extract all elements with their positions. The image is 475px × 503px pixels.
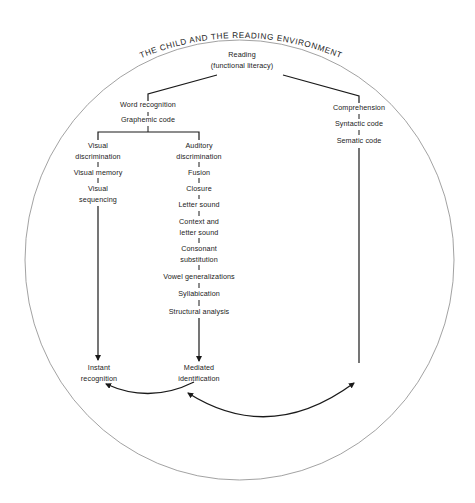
node-vowel-generalizations: Vowel generalizations <box>163 272 235 283</box>
node-fusion: Fusion <box>188 168 210 179</box>
node-comprehension: Comprehension <box>333 103 385 114</box>
arrow-mediated-comprehension-bidirectional <box>188 383 354 417</box>
node-context-letter-sound: Context and letter sound <box>179 217 219 238</box>
node-graphemic-code: Graphemic code <box>121 115 175 126</box>
node-mediated-identification: Mediated identification <box>178 363 219 384</box>
node-mediated-line1: Mediated <box>178 363 219 374</box>
node-structural-analysis: Structural analysis <box>169 307 230 318</box>
node-instant-line2: recognition <box>81 374 117 385</box>
node-instant-recognition: Instant recognition <box>81 363 117 384</box>
node-context-line1: Context and <box>179 217 219 228</box>
node-consonant-line2: substitution <box>180 255 218 266</box>
node-visual-sequencing: Visual sequencing <box>79 184 117 205</box>
node-closure: Closure <box>186 184 211 195</box>
diagram-canvas: THE CHILD AND THE READING ENVIRONMENT <box>0 0 475 503</box>
node-visual-discrimination: Visual discrimination <box>75 141 120 162</box>
node-context-line2: letter sound <box>179 228 219 239</box>
node-visual-discrimination-line1: Visual <box>75 141 120 152</box>
node-visual-sequencing-line1: Visual <box>79 184 117 195</box>
node-reading: Reading (functional literacy) <box>211 50 273 71</box>
node-letter-sound: Letter sound <box>178 200 219 211</box>
node-visual-sequencing-line2: sequencing <box>79 195 117 206</box>
connector-root-to-word-recognition <box>148 75 217 101</box>
node-instant-line1: Instant <box>81 363 117 374</box>
node-auditory-discrimination-line2: discrimination <box>176 152 221 163</box>
connector-branch <box>98 132 199 140</box>
node-mediated-line2: identification <box>178 374 219 385</box>
node-consonant-substitution: Consonant substitution <box>180 244 218 265</box>
node-syllabication: Syllabication <box>178 289 220 300</box>
node-reading-line1: Reading <box>211 50 273 61</box>
node-auditory-discrimination-line1: Auditory <box>176 141 221 152</box>
node-word-recognition: Word recognition <box>120 100 176 111</box>
node-syntactic-code: Syntactic code <box>335 119 383 130</box>
node-auditory-discrimination: Auditory discrimination <box>176 141 221 162</box>
node-reading-line2: (functional literacy) <box>211 61 273 72</box>
node-visual-memory: Visual memory <box>74 168 123 179</box>
node-sematic-code: Sematic code <box>337 136 382 147</box>
connector-root-to-comprehension <box>283 75 359 103</box>
node-visual-discrimination-line2: discrimination <box>75 152 120 163</box>
node-consonant-line1: Consonant <box>180 244 218 255</box>
